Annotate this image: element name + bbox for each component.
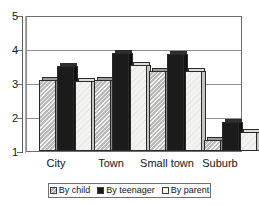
x-tick-label-city: City	[28, 157, 84, 169]
y-tick-label-1: 1	[0, 147, 18, 158]
x-tick-label-small-town: Small town	[136, 157, 198, 169]
bar-front-face	[39, 80, 56, 151]
y-tick-label-4: 4	[0, 45, 18, 56]
bar-front-face	[204, 140, 221, 151]
bar-front-face	[167, 54, 184, 151]
bar-front-face	[94, 80, 111, 151]
bar-front-face	[75, 81, 92, 151]
plot-area	[26, 16, 242, 152]
legend-item-by-parent[interactable]: By parent	[162, 186, 210, 195]
x-tick-label-suburb: Suburb	[192, 157, 248, 169]
bar-chart-figure: 5 4 3 2 1 City Town Small town Suburb By…	[0, 0, 259, 206]
legend-label-by-teenager: By teenager	[106, 186, 155, 195]
bar-group-city	[39, 15, 95, 151]
bar-suburb-by-child[interactable]	[204, 137, 221, 151]
bar-front-face	[240, 132, 257, 151]
legend-swatch-icon-by-teenager	[97, 187, 104, 194]
legend-label-by-child: By child	[59, 186, 91, 195]
bar-group-town	[94, 15, 150, 151]
bar-front-face	[185, 71, 202, 151]
bar-group-suburb	[204, 15, 259, 151]
legend: By child By teenager By parent	[48, 183, 211, 198]
bar-front-face	[222, 122, 239, 151]
bar-side-face	[257, 132, 259, 151]
bar-town-by-parent[interactable]	[130, 62, 147, 151]
legend-swatch-icon-by-child	[50, 187, 57, 194]
bar-city-by-teenager[interactable]	[57, 63, 74, 151]
legend-swatch-icon-by-parent	[162, 187, 169, 194]
y-axis	[22, 16, 26, 153]
legend-item-by-child[interactable]: By child	[50, 186, 91, 195]
bar-city-by-child[interactable]	[39, 77, 56, 151]
bar-suburb-by-teenager[interactable]	[222, 119, 239, 151]
bar-suburb-by-parent[interactable]	[240, 129, 257, 151]
bar-front-face	[112, 53, 129, 151]
bar-group-small-town	[149, 15, 205, 151]
bar-small-town-by-child[interactable]	[149, 68, 166, 151]
bar-small-town-by-parent[interactable]	[185, 68, 202, 151]
y-tick-label-3: 3	[0, 79, 18, 90]
legend-label-by-parent: By parent	[171, 186, 210, 195]
bar-town-by-child[interactable]	[94, 77, 111, 151]
bar-city-by-parent[interactable]	[75, 78, 92, 151]
bar-front-face	[130, 65, 147, 151]
bar-front-face	[57, 66, 74, 151]
legend-item-by-teenager[interactable]: By teenager	[97, 186, 155, 195]
x-tick-label-town: Town	[83, 157, 139, 169]
bar-small-town-by-teenager[interactable]	[167, 51, 184, 151]
y-tick-label-2: 2	[0, 113, 18, 124]
bar-town-by-teenager[interactable]	[112, 50, 129, 151]
y-tick-label-5: 5	[0, 11, 18, 22]
bar-front-face	[149, 71, 166, 151]
